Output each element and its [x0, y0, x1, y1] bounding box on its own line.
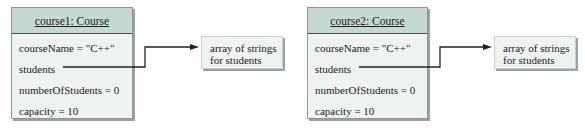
course2-object-fields: courseName = "C++" students numberOfStud… [308, 34, 427, 122]
course2-field-coursename: courseName = "C++" [315, 38, 427, 59]
course2-field-numberofstudents: numberOfStudents = 0 [315, 80, 427, 101]
course1-object-header: course1: Course [12, 8, 132, 34]
course1-object-title: course1: Course [35, 15, 109, 27]
course1-arrowhead-icon [190, 44, 199, 50]
course1-students-array-box: array of strings for students [201, 36, 283, 69]
course2-field-students: students [315, 59, 427, 80]
course1-field-students: students [19, 59, 132, 80]
course2-object-title: course2: Course [330, 15, 404, 27]
course1-field-numberofstudents: numberOfStudents = 0 [19, 80, 132, 101]
course1-object-box: course1: Course courseName = "C++" stude… [11, 7, 133, 119]
course2-object-box: course2: Course courseName = "C++" stude… [307, 7, 428, 119]
course2-students-array-box: array of strings for students [494, 36, 576, 69]
course1-object-fields: courseName = "C++" students numberOfStud… [12, 34, 132, 122]
course2-arrowhead-icon [483, 44, 492, 50]
course2-array-label-line1: array of strings [503, 42, 575, 54]
course1-array-label-line1: array of strings [210, 42, 282, 54]
course2-field-capacity: capacity = 10 [315, 101, 427, 122]
course2-object-header: course2: Course [308, 8, 427, 34]
course2-array-label-line2: for students [503, 54, 575, 66]
course1-array-label-line2: for students [210, 54, 282, 66]
course1-field-coursename: courseName = "C++" [19, 38, 132, 59]
course1-field-capacity: capacity = 10 [19, 101, 132, 122]
